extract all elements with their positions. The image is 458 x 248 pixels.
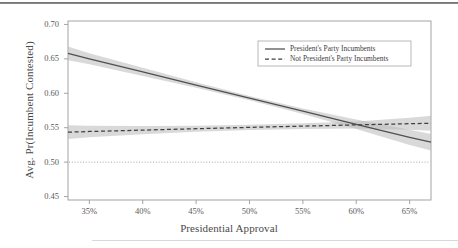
legend-label-0: President's Party Incumbents	[290, 44, 376, 53]
y-tick-label: 0.60	[29, 88, 59, 98]
y-tick-label: 0.55	[29, 122, 59, 132]
y-tick-label: 0.50	[29, 157, 59, 167]
y-tick-label: 0.65	[29, 53, 59, 63]
figure-canvas: Presidential Approval Avg. Pr(Incumbent …	[0, 0, 458, 248]
legend-label-1: Not President's Party Incumbents	[290, 54, 388, 63]
x-tick-label: 65%	[390, 206, 430, 216]
x-tick-label: 60%	[336, 206, 376, 216]
x-tick-label: 45%	[176, 206, 216, 216]
x-tick-label: 40%	[123, 206, 163, 216]
y-axis-label: Avg. Pr(Incumbent Contested)	[23, 15, 35, 205]
x-tick-label: 55%	[283, 206, 323, 216]
y-tick-label: 0.70	[29, 19, 59, 29]
y-tick-label: 0.45	[29, 191, 59, 201]
x-tick-label: 50%	[230, 206, 270, 216]
x-axis-label: Presidential Approval	[0, 222, 458, 234]
x-tick-label: 35%	[69, 206, 109, 216]
